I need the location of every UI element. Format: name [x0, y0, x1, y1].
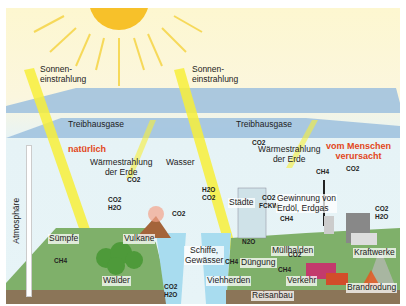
source-slash-burn: Brandrodung — [346, 283, 397, 293]
source-livestock: Viehherden — [206, 276, 251, 286]
gas-label: CH4 — [278, 266, 291, 274]
source-cities: Städte — [228, 198, 255, 208]
gas-label: CH4 — [225, 258, 238, 266]
source-oil-gas: Gewinnung von Erdöl, Erdgas — [276, 194, 337, 213]
greenhouse-diagram: Sonnen- einstrahlung Sonnen- einstrahlun… — [6, 8, 400, 304]
gas-label: CH4 — [280, 215, 293, 223]
gas-label: CO2 — [346, 165, 359, 173]
atmosphere-arrow-icon — [26, 145, 32, 297]
source-volcanoes: Vulkane — [123, 234, 155, 244]
gas-label: N2O — [242, 238, 255, 246]
gas-label: H2O CO2 — [202, 186, 215, 201]
gas-label: CH4 — [316, 168, 329, 176]
gas-label: CO2 — [252, 139, 265, 147]
source-ships: Schiffe, Gewässer — [184, 246, 224, 265]
earth-heat-right-label: Wärmestrahlung der Erde — [258, 145, 320, 164]
greenhouse-gases-right-label: Treibhausgase — [236, 120, 292, 130]
source-forests: Wälder — [102, 276, 131, 286]
water-label: Wasser — [166, 158, 195, 168]
source-power-plants: Kraftwerke — [353, 248, 396, 258]
natural-label: natürlich — [68, 145, 106, 155]
source-rice: Reisanbau — [251, 291, 294, 301]
source-traffic: Verkehr — [286, 276, 317, 286]
source-fertilization: Düngung — [240, 258, 277, 268]
gas-label: CO2 H2O — [375, 205, 388, 220]
sun-radiation-left-label: Sonnen- einstrahlung — [40, 65, 86, 84]
gas-label: CO2 H2O — [108, 196, 121, 211]
gas-label: CO2 — [172, 210, 185, 218]
source-swamps: Sümpfe — [48, 234, 79, 244]
greenhouse-gases-left-label: Treibhausgase — [68, 120, 124, 130]
earth-heat-left-label: Wärmestrahlung der Erde — [90, 158, 152, 177]
atmosphere-label: Atmosphäre — [12, 198, 22, 244]
gas-label: CO2 H2O — [164, 283, 177, 298]
gas-label: CO2 — [288, 251, 301, 259]
human-label: vom Menschen verursacht — [326, 142, 391, 161]
gas-label: CH4 — [54, 257, 67, 265]
sun-radiation-right-label: Sonnen- einstrahlung — [192, 65, 238, 84]
gas-label: CO2 — [127, 176, 140, 184]
